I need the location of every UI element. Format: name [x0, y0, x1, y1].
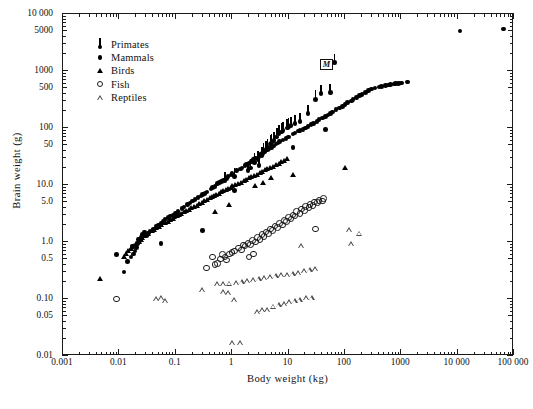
axis-tick — [62, 224, 66, 225]
y-tick-label: 5.0 — [0, 196, 53, 206]
axis-tick — [169, 13, 170, 17]
data-point-reptiles — [298, 243, 304, 248]
axis-tick — [172, 13, 173, 17]
data-point-mammals — [219, 179, 224, 184]
y-tick-label: 10.0 — [0, 179, 53, 189]
axis-tick — [510, 36, 514, 37]
axis-tick — [510, 157, 514, 158]
axis-tick — [510, 167, 514, 168]
legend-item-birds[interactable]: Birds — [92, 64, 154, 77]
axis-tick — [508, 144, 513, 145]
axis-tick — [62, 53, 66, 54]
axis-tick — [507, 241, 513, 242]
axis-tick — [510, 301, 514, 302]
axis-tick — [62, 298, 68, 299]
axis-tick — [510, 304, 514, 305]
axis-tick — [192, 352, 193, 356]
axis-tick — [258, 13, 259, 17]
axis-tick — [344, 349, 345, 355]
data-point-reptiles — [312, 266, 318, 271]
axis-tick — [507, 70, 513, 71]
axis-tick — [62, 79, 66, 80]
axis-tick — [62, 13, 68, 14]
data-point-mammals — [349, 99, 354, 104]
axis-tick — [510, 187, 514, 188]
data-point-fish — [113, 296, 120, 303]
axis-tick — [219, 13, 220, 17]
axis-tick — [335, 352, 336, 356]
x-tick-label: 0.1 — [169, 357, 181, 367]
axis-tick — [62, 144, 67, 145]
data-point-mammals — [360, 92, 365, 97]
axis-tick — [444, 13, 445, 17]
filled-triangle-icon — [92, 64, 108, 77]
axis-tick — [89, 13, 90, 17]
axis-tick — [62, 187, 66, 188]
data-point-mammals — [458, 29, 463, 34]
axis-tick — [248, 13, 249, 17]
data-point-mammals — [303, 126, 308, 131]
axis-tick — [166, 13, 167, 17]
legend-item-mammals[interactable]: Mammals — [92, 51, 154, 64]
data-point-mammals — [114, 252, 119, 257]
axis-tick — [162, 352, 163, 356]
open-circle-icon — [92, 78, 108, 91]
axis-tick — [335, 13, 336, 17]
data-point-mammals — [277, 139, 282, 144]
axis-tick — [152, 13, 153, 17]
y-tick-label: 10 000 — [0, 8, 53, 18]
data-point-reptiles — [229, 340, 235, 345]
axis-tick — [510, 190, 514, 191]
axis-tick — [62, 93, 66, 94]
x-tick-label: 10 — [283, 357, 293, 367]
axis-tick — [510, 76, 514, 77]
axis-tick — [444, 352, 445, 356]
axis-tick — [62, 70, 68, 71]
legend-label: Birds — [111, 65, 135, 76]
data-point-primates — [279, 130, 284, 135]
axis-tick — [440, 13, 441, 17]
axis-tick — [62, 76, 66, 77]
axis-tick — [510, 16, 514, 17]
legend-label: Fish — [111, 79, 130, 90]
axis-tick — [392, 13, 393, 17]
data-point-birds — [212, 209, 218, 214]
data-point-mammals — [323, 127, 328, 132]
axis-tick — [135, 13, 136, 17]
x-tick-label: 0.01 — [110, 357, 127, 367]
data-point-mammals — [210, 185, 215, 190]
data-point-mammals — [260, 151, 265, 156]
axis-tick — [275, 352, 276, 356]
axis-tick — [361, 352, 362, 356]
axis-tick — [62, 193, 66, 194]
data-point-primates — [328, 90, 333, 95]
axis-tick — [62, 16, 66, 17]
data-point-birds — [129, 244, 135, 249]
axis-tick — [417, 13, 418, 17]
axis-tick — [510, 321, 514, 322]
x-tick-label: 1 — [229, 357, 234, 367]
axis-tick — [62, 22, 66, 23]
axis-tick — [454, 13, 455, 17]
axis-tick — [62, 73, 66, 74]
legend-item-reptiles[interactable]: Reptiles — [92, 91, 154, 104]
axis-tick — [145, 13, 146, 17]
data-point-reptiles — [356, 231, 362, 236]
open-triangle-icon — [92, 91, 108, 104]
data-point-mammals — [159, 241, 164, 246]
data-point-mammals — [125, 259, 130, 264]
data-point-mammals — [284, 136, 289, 141]
axis-tick — [62, 214, 66, 215]
data-point-reptiles — [309, 295, 315, 300]
axis-tick — [62, 311, 66, 312]
axis-tick — [62, 254, 66, 255]
legend-item-fish[interactable]: Fish — [92, 78, 154, 91]
legend-item-primates[interactable]: Primates — [92, 38, 154, 51]
axis-tick — [434, 352, 435, 356]
y-tick-label: 100 — [0, 122, 53, 132]
axis-tick — [451, 352, 452, 356]
y-tick-label: 1000 — [0, 65, 53, 75]
axis-tick — [510, 247, 514, 248]
axis-tick — [275, 13, 276, 17]
axis-tick — [265, 352, 266, 356]
